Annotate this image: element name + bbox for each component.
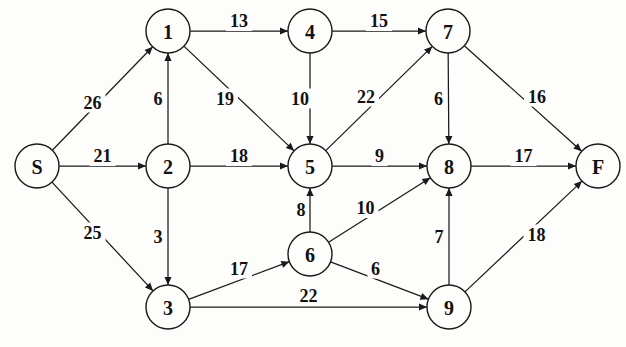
edge-weight-label: 6 bbox=[371, 259, 380, 279]
node-label: 6 bbox=[305, 244, 315, 266]
node-label: 1 bbox=[163, 21, 173, 43]
graph-node-F[interactable]: F bbox=[576, 144, 620, 188]
edge-weight-label: 10 bbox=[357, 198, 375, 218]
edge-line bbox=[448, 53, 449, 144]
edge-weight-label: 17 bbox=[230, 259, 248, 279]
edge-line bbox=[184, 46, 294, 151]
arrow-head-icon bbox=[568, 162, 576, 169]
node-label: 3 bbox=[163, 297, 173, 319]
arrow-head-icon bbox=[419, 162, 427, 169]
edge-weight-label: 10 bbox=[291, 89, 309, 109]
graph-node-7[interactable]: 7 bbox=[426, 9, 470, 53]
arrow-head-icon bbox=[420, 293, 429, 300]
edge-weight-label: 8 bbox=[297, 200, 306, 220]
edge-line bbox=[329, 178, 431, 242]
node-label: 2 bbox=[163, 156, 173, 178]
node-label: S bbox=[31, 156, 42, 178]
node-label: 4 bbox=[305, 21, 315, 43]
arrow-head-icon bbox=[306, 188, 313, 196]
graph-node-8[interactable]: 8 bbox=[427, 144, 471, 188]
edge-weight-label: 6 bbox=[154, 89, 163, 109]
graph-edge bbox=[184, 46, 294, 151]
graph-node-6[interactable]: 6 bbox=[288, 232, 332, 276]
arrow-head-icon bbox=[418, 27, 426, 34]
edge-weight-label: 18 bbox=[230, 146, 248, 166]
graph-canvas: 2621256318131915102296161781061722718 S1… bbox=[0, 0, 626, 347]
arrow-head-icon bbox=[445, 136, 452, 144]
edge-weight-label: 22 bbox=[300, 286, 318, 306]
edge-weight-label: 19 bbox=[216, 89, 234, 109]
graph-node-4[interactable]: 4 bbox=[288, 9, 332, 53]
edge-weight-label: 7 bbox=[435, 227, 444, 247]
arrow-head-icon bbox=[281, 261, 290, 268]
edge-weight-label: 22 bbox=[357, 87, 375, 107]
graph-node-S[interactable]: S bbox=[15, 144, 59, 188]
arrow-head-icon bbox=[164, 277, 171, 285]
node-label: F bbox=[592, 156, 604, 178]
graph-node-2[interactable]: 2 bbox=[146, 144, 190, 188]
arrow-head-icon bbox=[138, 162, 146, 169]
arrow-head-icon bbox=[306, 136, 313, 144]
edge-weight-label: 26 bbox=[84, 93, 102, 113]
edge-weight-label: 16 bbox=[528, 87, 546, 107]
node-label: 5 bbox=[305, 156, 315, 178]
edge-weight-label: 15 bbox=[370, 11, 388, 31]
graph-node-1[interactable]: 1 bbox=[146, 9, 190, 53]
graph-node-3[interactable]: 3 bbox=[146, 285, 190, 329]
graph-svg: 2621256318131915102296161781061722718 S1… bbox=[0, 0, 626, 347]
graph-edge bbox=[329, 178, 431, 242]
edge-weight-label: 17 bbox=[515, 146, 533, 166]
edge-line bbox=[464, 46, 581, 152]
edge-weight-label: 6 bbox=[434, 89, 443, 109]
nodes-layer: S123456789F bbox=[15, 9, 620, 329]
arrow-head-icon bbox=[445, 188, 452, 196]
arrow-head-icon bbox=[280, 27, 288, 34]
edge-weight-label: 13 bbox=[230, 11, 248, 31]
graph-edge bbox=[464, 46, 581, 152]
edge-weight-label: 21 bbox=[94, 146, 112, 166]
edge-weight-label: 25 bbox=[84, 223, 102, 243]
edge-weight-label: 3 bbox=[154, 227, 163, 247]
graph-node-5[interactable]: 5 bbox=[288, 144, 332, 188]
arrow-head-icon bbox=[419, 303, 427, 310]
edge-weight-label: 18 bbox=[528, 225, 546, 245]
edge-weight-label: 9 bbox=[375, 146, 384, 166]
arrow-head-icon bbox=[164, 53, 171, 61]
graph-node-9[interactable]: 9 bbox=[427, 285, 471, 329]
node-label: 8 bbox=[444, 156, 454, 178]
node-label: 9 bbox=[444, 297, 454, 319]
arrow-head-icon bbox=[280, 162, 288, 169]
arrow-head-icon bbox=[422, 178, 431, 185]
node-label: 7 bbox=[443, 21, 453, 43]
